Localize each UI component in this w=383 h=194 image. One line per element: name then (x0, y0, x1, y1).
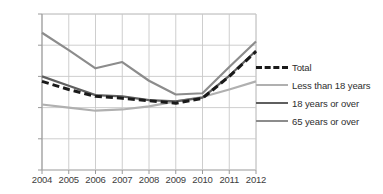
x-axis-tick-labels: 200420052006200720082009201020112012 (0, 170, 383, 188)
legend-item[interactable]: 18 years or over (256, 94, 383, 112)
x-axis-label: 2010 (192, 174, 212, 185)
x-axis-label: 2005 (59, 174, 79, 185)
legend-item-label: Total (292, 62, 312, 73)
x-axis-label: 2011 (219, 174, 239, 185)
x-axis-label: 2007 (112, 174, 132, 185)
chart-screenshot: 0.05.010.015.020.025.0 20042005200620072… (0, 0, 383, 194)
chart-legend: TotalLess than 18 years18 years or over6… (256, 58, 383, 130)
x-axis-label: 2004 (32, 174, 52, 185)
x-axis-label: 2012 (246, 174, 266, 185)
legend-swatch-icon (256, 115, 288, 127)
legend-swatch-icon (256, 61, 288, 73)
line-chart: 0.05.010.015.020.025.0 20042005200620072… (0, 0, 258, 194)
legend-swatch-icon (256, 97, 288, 109)
x-axis-label: 2008 (139, 174, 159, 185)
x-axis-label: 2006 (85, 174, 105, 185)
legend-item-label: Less than 18 years (292, 80, 370, 91)
legend-item-label: 65 years or over (292, 116, 359, 127)
legend-item[interactable]: Total (256, 58, 383, 76)
plot-canvas (0, 0, 258, 194)
legend-item[interactable]: 65 years or over (256, 112, 383, 130)
x-axis-label: 2009 (166, 174, 186, 185)
legend-item-label: 18 years or over (292, 98, 359, 109)
legend-item[interactable]: Less than 18 years (256, 76, 383, 94)
legend-swatch-icon (256, 79, 288, 91)
